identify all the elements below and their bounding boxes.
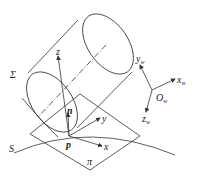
label-Ow: Ow: [156, 92, 167, 104]
cylinder-tool: [16, 5, 144, 142]
label-n: n: [67, 105, 73, 116]
label-y: y: [101, 113, 107, 124]
world-frame: [140, 65, 175, 112]
label-p: p: [65, 139, 71, 150]
label-sigma: Σ: [9, 69, 16, 80]
z-axis: [58, 56, 69, 136]
tangent-plane: [30, 94, 140, 170]
surface-curve: [14, 137, 175, 155]
tool-surface-diagram: Σ z n y x p S π yw xw Ow zw: [0, 0, 198, 179]
label-x: x: [103, 141, 109, 152]
label-xw: xw: [176, 74, 185, 86]
label-yw: yw: [135, 53, 144, 65]
label-zw: zw: [141, 113, 150, 125]
label-z: z: [55, 46, 60, 57]
label-pi: π: [87, 156, 93, 167]
label-S: S: [9, 143, 14, 154]
